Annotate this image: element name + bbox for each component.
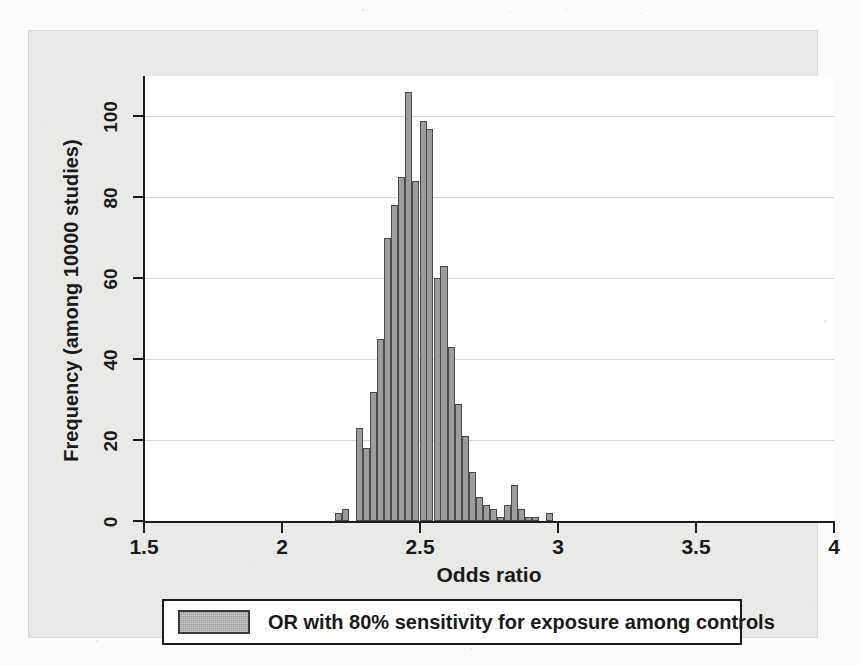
scan-artifact [812, 600, 813, 602]
y-axis-title: Frequency (among 10000 studies) [60, 91, 83, 511]
scan-artifact [44, 120, 46, 121]
scan-artifact [470, 648, 472, 650]
scanned-page: 020406080100 1.522.533.54 Frequency (amo… [0, 0, 860, 666]
y-tick-40 [133, 358, 144, 360]
y-tick-label-60: 60 [100, 259, 122, 299]
histogram-bar [511, 485, 518, 521]
scan-artifact [205, 14, 206, 15]
x-axis-title: Odds ratio [144, 563, 834, 587]
scan-artifact [700, 556, 702, 558]
x-tick-label-3: 3 [528, 535, 588, 559]
y-tick-100 [133, 115, 144, 117]
y-axis-line [143, 76, 145, 522]
histogram-bar [440, 266, 447, 521]
y-tick-60 [133, 277, 144, 279]
y-tick-20 [133, 439, 144, 441]
x-tick-2 [281, 522, 283, 533]
x-tick-label-2: 2 [252, 535, 312, 559]
graph-region: 020406080100 1.522.533.54 Frequency (amo… [28, 30, 818, 638]
x-tick-3 [557, 522, 559, 533]
x-tick-3.5 [695, 522, 697, 533]
histogram-bar [546, 513, 553, 521]
x-tick-label-2.5: 2.5 [390, 535, 450, 559]
histogram-bar [398, 177, 405, 521]
histogram-bar [384, 238, 391, 521]
scan-artifact [720, 630, 723, 631]
histogram-bar [426, 129, 433, 521]
scan-artifact [640, 13, 642, 14]
x-tick-label-1.5: 1.5 [114, 535, 174, 559]
legend: OR with 80% sensitivity for exposure amo… [162, 599, 742, 645]
y-tick-label-80: 80 [100, 178, 122, 218]
histogram-bar [370, 392, 377, 521]
y-tick-label-40: 40 [100, 340, 122, 380]
scan-artifact [508, 11, 511, 12]
x-tick-label-3.5: 3.5 [666, 535, 726, 559]
histogram-bar [356, 428, 363, 521]
scan-artifact [96, 640, 99, 642]
histogram-bar [455, 404, 462, 521]
y-tick-label-100: 100 [100, 97, 122, 137]
scan-artifact [300, 654, 301, 655]
histogram-bar [342, 509, 349, 521]
x-axis-line [143, 521, 835, 523]
legend-label: OR with 80% sensitivity for exposure amo… [268, 611, 775, 634]
histogram-bar [412, 181, 419, 521]
histogram-bar [469, 472, 476, 521]
x-tick-2.5 [419, 522, 421, 533]
legend-swatch-icon [178, 610, 250, 634]
histogram-bars [144, 76, 834, 521]
scan-artifact [824, 320, 827, 322]
histogram-bar [483, 505, 490, 521]
x-tick-label-4: 4 [804, 535, 860, 559]
x-tick-4 [833, 522, 835, 533]
scan-artifact [566, 8, 567, 10]
scan-artifact [362, 9, 364, 11]
y-tick-label-20: 20 [100, 421, 122, 461]
y-tick-80 [133, 196, 144, 198]
scan-artifact [250, 560, 251, 561]
x-tick-1.5 [143, 522, 145, 533]
plot-area [144, 76, 834, 521]
